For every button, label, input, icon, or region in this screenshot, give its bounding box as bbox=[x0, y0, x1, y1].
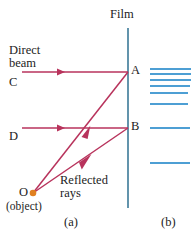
direct-beam-label: Directbeam bbox=[9, 44, 40, 70]
reflected-ray-ob-arrowhead bbox=[79, 154, 92, 169]
film-label: Film bbox=[110, 8, 134, 21]
direct-beam-label-line1: Direct bbox=[9, 43, 40, 57]
object-caption-label: (object) bbox=[6, 200, 42, 212]
reflected-rays-label-line2: rays bbox=[60, 186, 81, 200]
point-a-label: A bbox=[131, 64, 140, 77]
point-c-label: C bbox=[9, 76, 17, 89]
point-d-label: D bbox=[9, 130, 18, 143]
diffraction-pattern-group bbox=[150, 69, 191, 163]
reflected-rays-label: Reflectedrays bbox=[60, 174, 108, 200]
panel-a-caption: (a) bbox=[64, 216, 78, 229]
point-o-label: O bbox=[19, 186, 28, 199]
reflected-rays-label-line1: Reflected bbox=[60, 173, 108, 187]
object-point-dot bbox=[30, 190, 37, 197]
panel-b-caption: (b) bbox=[161, 216, 176, 229]
direct-beam-d-arrowhead bbox=[57, 124, 65, 131]
optics-figure: Film Directbeam C D A B O (object) Refle… bbox=[0, 0, 195, 248]
point-b-label: B bbox=[131, 120, 139, 133]
direct-beam-c-arrowhead bbox=[57, 68, 65, 75]
direct-beam-label-line2: beam bbox=[9, 56, 36, 70]
